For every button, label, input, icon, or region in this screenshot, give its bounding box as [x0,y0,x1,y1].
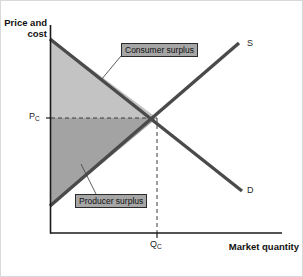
equilibrium-price-label: PC [29,111,40,121]
quantity-symbol: Q [150,239,157,249]
demand-curve-label: D [247,185,254,195]
supply-curve-label: S [247,38,253,48]
quantity-subscript: C [157,243,162,250]
price-subscript: C [35,115,40,122]
supply-demand-surplus-figure: Price and cost Market quantity PC QC S D… [0,0,303,277]
producer-surplus-callout: Producer surplus [75,194,147,208]
y-axis-title: Price and cost [1,17,47,39]
consumer-surplus-callout: Consumer surplus [121,43,198,57]
x-axis-title: Market quantity [219,241,299,252]
equilibrium-quantity-label: QC [150,239,162,249]
consumer-surplus-leader-line [101,56,121,80]
